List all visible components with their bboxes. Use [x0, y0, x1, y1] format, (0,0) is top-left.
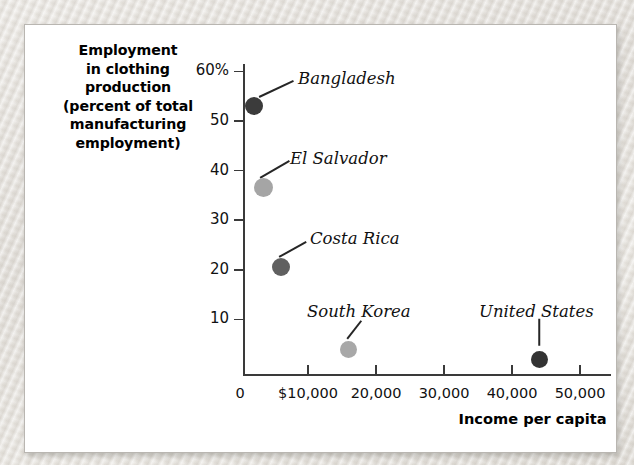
x-axis-line: [243, 374, 611, 376]
data-point-united-states[interactable]: [531, 351, 548, 368]
point-leader-line: [346, 321, 361, 340]
x-axis-tick: [579, 365, 581, 374]
data-point-label-bangladesh: Bangladesh: [298, 69, 396, 88]
data-point-label-costa-rica: Costa Rica: [310, 229, 400, 248]
point-leader-line: [259, 80, 294, 97]
y-axis-tick-label: 40: [165, 161, 229, 179]
y-axis-tick: [234, 269, 243, 271]
y-axis-tick-label: 50: [165, 111, 229, 129]
x-axis-tick: [307, 365, 309, 374]
x-axis-title: Income per capita: [427, 410, 607, 427]
data-point-el-salvador[interactable]: [254, 178, 273, 197]
data-point-label-united-states: United States: [479, 302, 594, 321]
figure-page: Employment in clothing production (perce…: [0, 0, 634, 465]
y-axis-tick: [234, 170, 243, 172]
y-axis-tick-label: 30: [165, 210, 229, 228]
point-leader-line: [279, 241, 307, 257]
x-axis-tick: [375, 365, 377, 374]
y-axis-tick: [234, 71, 243, 73]
y-axis-tick: [234, 319, 243, 321]
x-axis-tick: [511, 365, 513, 374]
point-leader-line: [260, 160, 290, 178]
y-axis-tick: [234, 120, 243, 122]
y-axis-tick-label: 60%: [165, 61, 229, 79]
data-point-bangladesh[interactable]: [245, 97, 263, 115]
data-point-south-korea[interactable]: [340, 341, 357, 358]
data-point-label-south-korea: South Korea: [307, 302, 411, 321]
y-axis-tick: [234, 219, 243, 221]
y-axis-line: [243, 64, 245, 376]
y-axis-tick-label: 10: [165, 309, 229, 327]
chart-panel: Employment in clothing production (perce…: [24, 24, 617, 453]
plot-area: 102030405060%0$10,00020,00030,00040,0005…: [25, 25, 616, 452]
point-leader-line: [538, 319, 540, 346]
x-axis-tick-label: 50,000: [530, 385, 630, 401]
x-axis-tick: [443, 365, 445, 374]
y-axis-tick-label: 20: [165, 260, 229, 278]
data-point-costa-rica[interactable]: [272, 258, 290, 276]
data-point-label-el-salvador: El Salvador: [290, 149, 387, 168]
